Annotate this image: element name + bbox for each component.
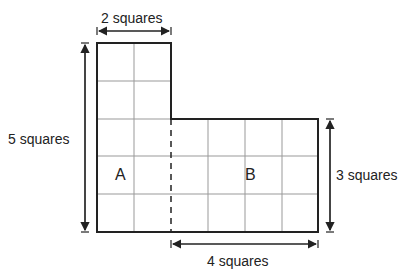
left-height-label: 5 squares [8, 131, 69, 147]
region-b-label: B [245, 166, 256, 184]
right-dimension-arrow [326, 119, 334, 232]
top-width-label: 2 squares [101, 10, 162, 26]
top-dimension-arrow [97, 27, 171, 35]
region-a-label: A [115, 166, 126, 184]
bottom-dimension-arrow [171, 240, 318, 248]
grid-lines [97, 43, 318, 232]
bottom-width-label: 4 squares [207, 253, 268, 269]
left-dimension-arrow [81, 43, 89, 232]
right-height-label: 3 squares [336, 167, 397, 183]
